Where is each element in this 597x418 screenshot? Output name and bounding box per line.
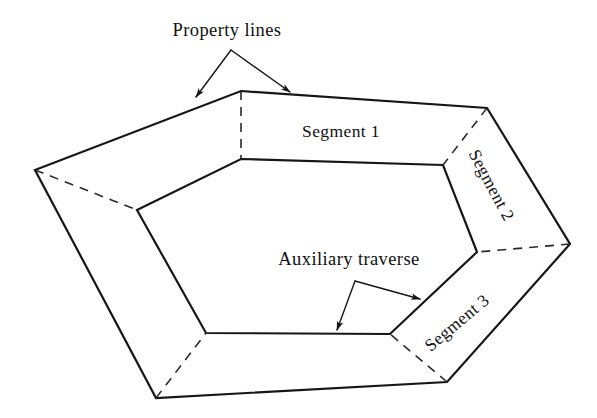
auxiliary-traverse-label: Auxiliary traverse [278,249,419,269]
callout-leaders-group [196,50,420,330]
auxiliary-traverse-polygon [137,159,477,334]
dashed-connector-4 [477,244,570,252]
property-lines-diagram: Property lines Auxiliary traverse Segmen… [0,0,597,418]
segment-labels-group: Segment 1Segment 2Segment 3 [302,121,519,355]
auxiliary-traverse-arrow-right [355,281,420,299]
auxiliary-traverse-arrow-left [337,281,355,330]
segment-3-label: Segment 3 [420,290,493,355]
dashed-connector-6 [156,333,206,398]
property-lines-arrow-left [196,50,231,97]
segment-2-label: Segment 2 [465,146,519,224]
property-lines-arrow-right [231,50,290,92]
dashed-connector-1 [35,170,137,210]
segment-1-label: Segment 1 [302,121,380,141]
property-lines-label: Property lines [173,20,282,40]
diagram-canvas: Property lines Auxiliary traverse Segmen… [0,0,597,418]
